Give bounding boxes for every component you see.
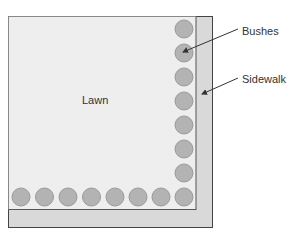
bush [152, 188, 170, 206]
bush [175, 92, 193, 110]
bush [36, 188, 54, 206]
bush [59, 188, 77, 206]
sidewalk-label: Sidewalk [242, 73, 287, 85]
bush [83, 188, 101, 206]
landscape-diagram: Lawn Bushes Sidewalk [0, 0, 293, 232]
bush [129, 188, 147, 206]
bush [175, 44, 193, 62]
bush [106, 188, 124, 206]
bush [175, 140, 193, 158]
bush [175, 20, 193, 38]
bush [175, 116, 193, 134]
lawn-label: Lawn [82, 94, 108, 106]
bush [175, 188, 193, 206]
bushes-label: Bushes [242, 25, 279, 37]
bush [12, 188, 30, 206]
bush [175, 164, 193, 182]
lawn [9, 17, 197, 210]
bush [175, 68, 193, 86]
